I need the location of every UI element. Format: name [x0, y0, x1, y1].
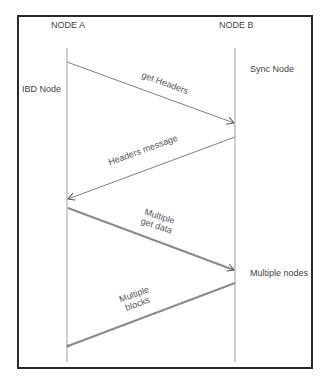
participant-node-b-label: NODE B: [219, 21, 254, 30]
arrow-get-headers: [67, 62, 234, 123]
sequence-diagram-canvas: [0, 0, 330, 387]
ibd-node-label: IBD Node: [22, 85, 61, 94]
sync-node-label: Sync Node: [250, 65, 294, 74]
participant-node-a-label: NODE A: [51, 21, 85, 30]
multiple-nodes-label: Multiple nodes: [250, 269, 308, 278]
